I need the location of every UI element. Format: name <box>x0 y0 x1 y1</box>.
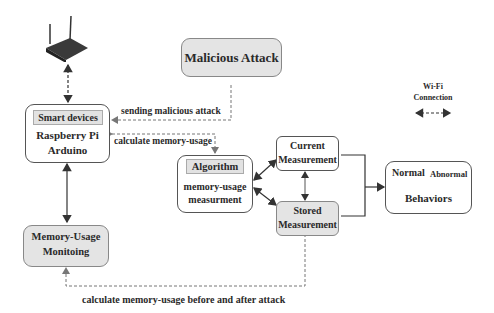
stored-label: Stored <box>277 205 338 216</box>
malicious-attack-label: Malicious Attack <box>182 50 281 66</box>
smart-devices-header: Smart devices <box>33 110 103 125</box>
wifi-router-icon <box>40 14 90 62</box>
smart-devices-node: Smart devices Raspberry Pi Arduino <box>25 104 110 163</box>
before-after-label: calculate memory-usage before and after … <box>82 294 285 305</box>
arduino-label: Arduino <box>26 144 109 156</box>
memory-usage-label: Memory-Usage <box>24 231 108 242</box>
current-label: Current <box>277 140 338 151</box>
raspberry-pi-label: Raspberry Pi <box>26 129 109 141</box>
behaviors-node: Normal Abnormal Behaviors <box>385 161 472 214</box>
normal-label: Normal <box>392 167 425 178</box>
memory-usage-monitoring-node: Memory-Usage Monitoing <box>23 225 109 267</box>
legend-connection-label: Connection <box>408 93 458 102</box>
current-measurement-node: Current Measurement <box>276 136 339 171</box>
calc-memory-label: calculate memory-usage <box>114 136 212 146</box>
monitoring-label: Monitoing <box>24 246 108 257</box>
algorithm-line1: memory-usage <box>178 181 252 192</box>
algorithm-header: Algorithm <box>186 159 244 174</box>
algorithm-line2: measurment <box>178 194 252 205</box>
algorithm-node: Algorithm memory-usage measurment <box>177 155 253 213</box>
abnormal-label: Abnormal <box>430 169 467 179</box>
malicious-attack-node: Malicious Attack <box>181 38 282 77</box>
behaviors-label: Behaviors <box>386 192 471 204</box>
legend-wifi-label: Wi-Fi <box>418 82 448 91</box>
sending-attack-label: sending malicious attack <box>121 106 221 116</box>
stored-measurement-label: Measurement <box>277 219 338 230</box>
current-measurement-label: Measurement <box>277 154 338 165</box>
stored-measurement-node: Stored Measurement <box>276 201 339 236</box>
